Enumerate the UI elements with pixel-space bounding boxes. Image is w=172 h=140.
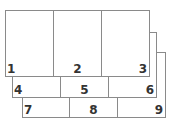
cell-label: 1	[7, 63, 15, 76]
cell-label: 5	[61, 84, 108, 97]
cell-1: 1	[6, 11, 54, 76]
cell-label: 2	[54, 63, 101, 76]
cell-label: 8	[70, 104, 117, 117]
cell-label: 4	[14, 84, 22, 97]
cell-2: 2	[54, 11, 102, 76]
cell-label: 3	[139, 63, 147, 76]
cell-label: 9	[155, 104, 163, 117]
cell-3: 3	[102, 11, 149, 76]
cell-label: 6	[146, 84, 154, 97]
panel-front: 1 2 3	[5, 10, 150, 77]
cell-label: 7	[24, 104, 32, 117]
